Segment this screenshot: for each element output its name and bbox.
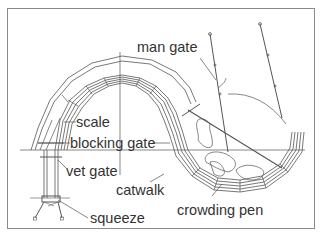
leader-vet-gate <box>58 160 66 168</box>
leader-man-gate <box>200 58 216 80</box>
scale-wall-1 <box>40 120 52 150</box>
label-scale: scale <box>76 115 110 130</box>
cattle-outline-4 <box>210 161 224 176</box>
label-squeeze: squeeze <box>90 211 145 226</box>
man-gate-arc <box>218 78 226 88</box>
label-man-gate: man gate <box>137 40 197 55</box>
squeeze-box <box>42 196 60 202</box>
label-crowding-pen: crowding pen <box>177 203 263 218</box>
label-catwalk: catwalk <box>116 183 164 198</box>
cattle-outline-3 <box>236 165 264 180</box>
squeeze-leg-left <box>35 202 44 218</box>
crowd-gate-left <box>210 34 228 152</box>
crowd-gate-right <box>260 24 282 118</box>
leader-squeeze <box>58 200 88 218</box>
squeeze-leg-right <box>58 202 62 218</box>
facility-diagram <box>0 0 320 240</box>
label-vet-gate: vet gate <box>66 164 118 179</box>
label-blocking-gate: blocking gate <box>70 136 155 151</box>
leader-catwalk <box>150 174 164 182</box>
